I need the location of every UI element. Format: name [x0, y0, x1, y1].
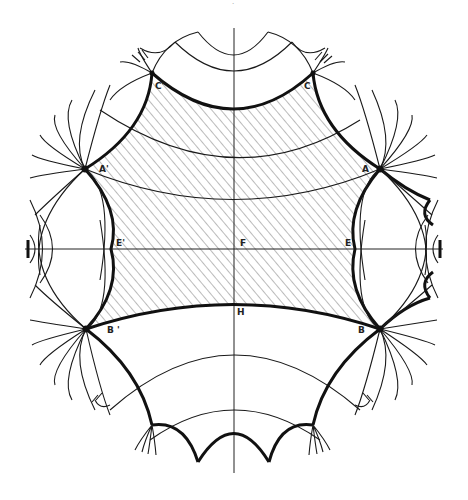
top-arcs [132, 32, 332, 73]
shaded-fundamental-region [85, 73, 380, 329]
label-e-prime: E' [116, 238, 125, 248]
label-h: H [237, 307, 245, 317]
label-b: B [358, 325, 365, 335]
page-mark: · [232, 0, 234, 8]
label-c: C [304, 81, 311, 91]
label-b-prime: B ' [107, 325, 120, 335]
label-a-prime: A' [99, 164, 109, 174]
label-a: A [362, 164, 369, 174]
label-e: E [345, 238, 351, 248]
bottom-fans [92, 393, 373, 455]
hyperbolic-tessellation-diagram: · [0, 0, 468, 500]
label-f: F [240, 238, 246, 248]
label-c-prime: C' [155, 81, 164, 91]
